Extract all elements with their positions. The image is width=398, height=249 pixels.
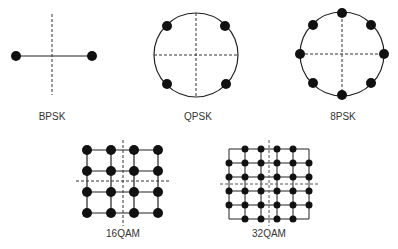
16qam-constellation: 16QAM	[76, 140, 170, 239]
constellation-diagrams: BPSK QPSK 8PSK	[0, 0, 398, 249]
bpsk-constellation: BPSK	[11, 14, 97, 122]
8psk-point	[337, 8, 347, 18]
32qam-constellation: 32QAM	[220, 140, 318, 239]
qpsk-constellation: QPSK	[154, 13, 238, 122]
8psk-point	[379, 49, 389, 59]
8psk-point	[366, 78, 376, 88]
8psk-point	[308, 78, 318, 88]
qpsk-point	[162, 21, 172, 31]
bpsk-label: BPSK	[39, 111, 66, 122]
8psk-constellation: 8PSK	[295, 8, 389, 122]
32qam-label: 32QAM	[252, 228, 286, 239]
bpsk-point	[11, 51, 21, 61]
qpsk-point	[162, 79, 172, 89]
qpsk-label: QPSK	[184, 111, 212, 122]
qpsk-point	[221, 79, 231, 89]
8psk-point	[295, 49, 305, 59]
8psk-label: 8PSK	[330, 111, 356, 122]
bpsk-point	[87, 51, 97, 61]
8psk-point	[337, 90, 347, 100]
8psk-point	[308, 20, 318, 30]
qpsk-point	[220, 21, 230, 31]
8psk-point	[366, 20, 376, 30]
16qam-label: 16QAM	[106, 228, 140, 239]
